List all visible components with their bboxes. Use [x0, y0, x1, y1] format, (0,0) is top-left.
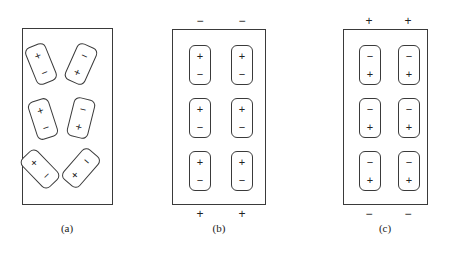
domain-b-6-pole-top: +: [232, 157, 252, 167]
domain-a-3-pole-top: +: [29, 103, 51, 119]
domain-a-4-pole-bottom: +: [68, 119, 90, 134]
domain-b-6: +−: [231, 151, 253, 191]
domain-a-1-pole-top: +: [26, 47, 48, 64]
domain-b-1-pole-top: +: [190, 51, 210, 61]
domain-a-5-pole-bottom: −: [36, 165, 57, 186]
domain-b-4-pole-bottom: −: [232, 122, 252, 132]
domain-b-6-pole-bottom: −: [232, 175, 252, 185]
terminal-b-top-right: −: [235, 15, 249, 27]
domain-c-5-pole-top: −: [360, 157, 380, 167]
domain-c-1: −+: [359, 45, 381, 85]
terminal-c-bottom-right: −: [401, 208, 415, 220]
domain-c-6: −+: [398, 151, 420, 191]
domain-c-6-pole-bottom: +: [399, 175, 419, 185]
domain-c-5-pole-bottom: +: [360, 175, 380, 185]
panel-caption-b: (b): [199, 222, 239, 234]
domain-c-2: −+: [398, 45, 420, 85]
domain-b-5-pole-top: +: [190, 157, 210, 167]
domain-c-3-pole-top: −: [360, 104, 380, 114]
domain-b-2-pole-bottom: −: [232, 69, 252, 79]
terminal-c-bottom-left: −: [362, 208, 376, 220]
domain-c-3: −+: [359, 98, 381, 138]
domain-c-2-pole-bottom: +: [399, 69, 419, 79]
domain-a-3-pole-bottom: −: [35, 120, 57, 136]
domain-c-1-pole-top: −: [360, 51, 380, 61]
terminal-b-bottom-left: +: [193, 208, 207, 220]
domain-c-4-pole-top: −: [399, 104, 419, 114]
domain-b-4: +−: [231, 98, 253, 138]
domain-c-4-pole-bottom: +: [399, 122, 419, 132]
domain-b-4-pole-top: +: [232, 104, 252, 114]
domain-a-6-pole-bottom: +: [64, 164, 86, 185]
domain-b-2-pole-top: +: [232, 51, 252, 61]
domain-c-3-pole-bottom: +: [360, 122, 380, 132]
domain-a-1-pole-bottom: −: [33, 64, 55, 81]
panel-caption-a: (a): [47, 222, 87, 234]
domain-b-5-pole-bottom: −: [190, 175, 210, 185]
ferroelectric-domain-figure: +−−++−−++−−+ (a) +−+−+−+−+−+− −−++ (b) −…: [0, 0, 450, 255]
domain-a-4-pole-top: −: [72, 102, 94, 117]
panel-caption-c: (c): [365, 222, 405, 234]
domain-a-2-pole-bottom: +: [66, 64, 88, 81]
domain-c-1-pole-bottom: +: [360, 69, 380, 79]
domain-b-3-pole-bottom: −: [190, 122, 210, 132]
domain-b-5: +−: [189, 151, 211, 191]
domain-b-3-pole-top: +: [190, 104, 210, 114]
domain-a-6-pole-top: −: [76, 151, 98, 172]
domain-b-2: +−: [231, 45, 253, 85]
domain-a-2-pole-top: −: [73, 47, 95, 64]
domain-c-2-pole-top: −: [399, 51, 419, 61]
terminal-c-top-right: +: [401, 15, 415, 27]
domain-c-6-pole-top: −: [399, 157, 419, 167]
domain-b-1: +−: [189, 45, 211, 85]
terminal-b-top-left: −: [193, 15, 207, 27]
terminal-c-top-left: +: [362, 15, 376, 27]
domain-c-5: −+: [359, 151, 381, 191]
domain-c-4: −+: [398, 98, 420, 138]
domain-b-1-pole-bottom: −: [190, 69, 210, 79]
domain-a-5-pole-top: +: [23, 152, 44, 173]
terminal-b-bottom-right: +: [235, 208, 249, 220]
domain-b-3: +−: [189, 98, 211, 138]
